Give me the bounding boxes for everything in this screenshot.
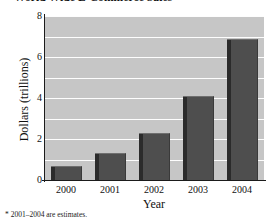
bar-2003 (183, 96, 214, 180)
bar-2004 (227, 39, 258, 180)
bars-group (44, 16, 264, 180)
x-tick-label: 2003 (176, 184, 220, 196)
x-tick-label: 2001 (88, 184, 132, 196)
x-tick-label: 2002 (132, 184, 176, 196)
bar-chart-figure: World Wide E-Commerce Sales 02468 200020… (0, 0, 277, 224)
chart-title: World Wide E-Commerce Sales (14, 0, 264, 5)
y-axis-line (44, 14, 45, 182)
chart-footnote: * 2001–2004 are estimates. (5, 210, 87, 219)
plot-area (44, 16, 264, 180)
x-axis-line (42, 180, 266, 181)
bar-2002 (139, 133, 170, 180)
x-tick-label: 2000 (44, 184, 88, 196)
bar-2001 (95, 153, 126, 180)
x-tick-label: 2004 (220, 184, 264, 196)
x-axis-tick-labels: 20002001200220032004 (44, 184, 264, 198)
bar-2000 (51, 166, 82, 180)
y-axis-title: Dollars (trillions) (17, 20, 32, 180)
